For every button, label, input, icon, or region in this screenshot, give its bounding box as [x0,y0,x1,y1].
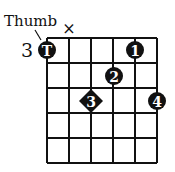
thumb-label: Thumb [4,12,57,30]
finger-3-diamond: 3 [79,89,103,113]
finger-2: 2 [105,67,123,85]
muted-string-marker: × [62,19,75,38]
svg-text:3: 3 [86,94,96,110]
chord-diagram: Thumb × 3 T 1 2 3 4 [0,0,175,172]
thumb-pointer [35,30,41,40]
start-fret-label: 3 [21,39,33,61]
svg-text:T: T [42,43,53,59]
finger-4: 4 [148,92,166,110]
svg-text:4: 4 [152,94,162,110]
finger-1: 1 [126,41,144,59]
svg-text:1: 1 [130,43,140,59]
finger-thumb: T [38,41,56,59]
svg-text:2: 2 [109,69,119,85]
